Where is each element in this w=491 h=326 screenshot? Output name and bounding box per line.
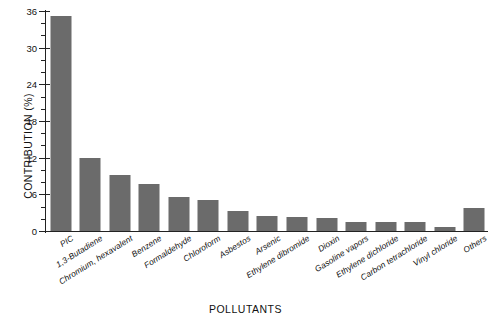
bar bbox=[375, 222, 396, 231]
y-tick-major bbox=[39, 194, 45, 195]
y-tick-inner bbox=[46, 231, 50, 232]
y-tick-minor bbox=[41, 207, 45, 208]
x-axis-title: POLLUTANTS bbox=[0, 303, 491, 315]
y-tick-label: 18 bbox=[26, 116, 37, 127]
bar bbox=[139, 184, 160, 231]
bar bbox=[287, 217, 308, 231]
y-tick-minor bbox=[41, 60, 45, 61]
y-axis-title: CONTRIBUTION (%) bbox=[22, 46, 34, 246]
bar-chart-figure: CONTRIBUTION (%) 061218243036 PIC1,3-But… bbox=[0, 0, 491, 326]
x-axis-line bbox=[45, 231, 488, 232]
y-tick-minor bbox=[41, 23, 45, 24]
bar-slot bbox=[105, 11, 135, 231]
y-tick-minor bbox=[41, 133, 45, 134]
x-axis-tick-labels: PIC1,3-ButadieneChromium, hexavalentBenz… bbox=[46, 233, 489, 301]
bar-slot bbox=[164, 11, 194, 231]
bar-slot bbox=[400, 11, 430, 231]
y-tick-label: 24 bbox=[26, 79, 37, 90]
bar bbox=[80, 158, 101, 231]
x-tick-label: PIC bbox=[58, 233, 75, 249]
bar bbox=[227, 211, 248, 231]
y-tick-minor bbox=[41, 145, 45, 146]
y-tick-major bbox=[39, 158, 45, 159]
bar bbox=[168, 197, 189, 231]
bar bbox=[109, 175, 130, 231]
bar bbox=[464, 208, 485, 231]
plot-area: 061218243036 bbox=[45, 11, 488, 232]
bar-slot bbox=[253, 11, 283, 231]
bar bbox=[198, 200, 219, 231]
bar-slot bbox=[194, 11, 224, 231]
bar-series bbox=[46, 11, 488, 231]
bar-slot bbox=[282, 11, 312, 231]
y-tick-minor bbox=[41, 109, 45, 110]
y-tick-minor bbox=[41, 170, 45, 171]
y-tick-minor bbox=[41, 72, 45, 73]
bar bbox=[434, 227, 455, 231]
bar-slot bbox=[341, 11, 371, 231]
bar bbox=[316, 218, 337, 231]
bar-slot bbox=[430, 11, 460, 231]
bar-slot bbox=[76, 11, 106, 231]
y-tick-major bbox=[39, 84, 45, 85]
y-tick-minor bbox=[41, 219, 45, 220]
y-tick-major bbox=[39, 48, 45, 49]
y-tick-major bbox=[39, 121, 45, 122]
y-tick-label: 6 bbox=[32, 189, 37, 200]
y-tick-label: 12 bbox=[26, 152, 37, 163]
bar-slot bbox=[46, 11, 76, 231]
bar bbox=[257, 216, 278, 231]
bar-slot bbox=[371, 11, 401, 231]
y-tick-major bbox=[39, 231, 45, 232]
bar-slot bbox=[223, 11, 253, 231]
bar bbox=[405, 222, 426, 231]
y-tick-minor bbox=[41, 35, 45, 36]
y-tick-label: 0 bbox=[32, 226, 37, 237]
bar-slot bbox=[135, 11, 165, 231]
y-tick-label: 30 bbox=[26, 42, 37, 53]
y-tick-minor bbox=[41, 97, 45, 98]
x-tick-label: Asbestos bbox=[217, 233, 252, 260]
y-tick-minor bbox=[41, 182, 45, 183]
y-tick-label: 36 bbox=[26, 6, 37, 17]
bar-slot bbox=[312, 11, 342, 231]
y-tick-major bbox=[39, 11, 45, 12]
bar bbox=[346, 222, 367, 231]
bar bbox=[50, 16, 71, 231]
bar-slot bbox=[459, 11, 489, 231]
x-tick-label: Others bbox=[462, 233, 489, 255]
